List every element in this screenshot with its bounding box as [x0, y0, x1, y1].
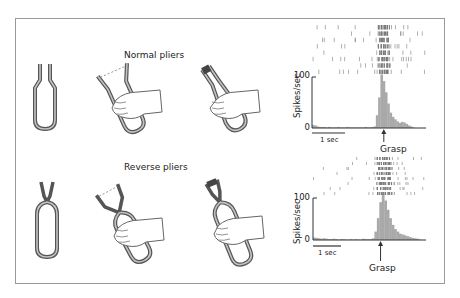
chart2-scale-label: 1 sec: [318, 249, 336, 257]
chart1-ytick-0: 0: [288, 122, 310, 132]
chart1-ytick-100: 100: [288, 70, 310, 80]
chart2-ytick-100: 100: [288, 192, 310, 202]
chart1-grasp-label: Grasp: [380, 144, 407, 154]
chart1-scale-label: 1 sec: [320, 136, 338, 144]
chart1-ylabel: Spikes/sec: [292, 73, 302, 118]
chart2-ytick-0: 0: [288, 234, 310, 244]
chart2-grasp-label: Grasp: [369, 263, 396, 273]
